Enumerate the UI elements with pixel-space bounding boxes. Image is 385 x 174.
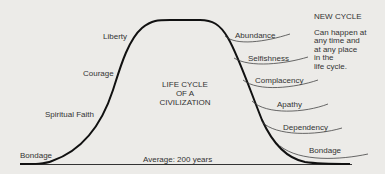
stage-apathy: Apathy	[277, 100, 302, 109]
average-duration-label: Average: 200 years	[143, 155, 212, 164]
new-cycle-line: life cycle.	[314, 63, 367, 72]
title-line-1: LIFE CYCLE	[148, 80, 222, 89]
new-cycle-note: NEW CYCLE Can happen at any time and at …	[314, 13, 367, 72]
stage-courage: Courage	[83, 69, 114, 78]
stage-bondage-start: Bondage	[20, 151, 52, 160]
new-cycle-heading: NEW CYCLE	[314, 13, 367, 22]
diagram-title: LIFE CYCLE OF A CIVILIZATION	[148, 80, 222, 107]
stage-spiritual-faith: Spiritual Faith	[45, 110, 94, 119]
stage-dependency: Dependency	[283, 123, 328, 132]
life-cycle-diagram: Bondage Spiritual Faith Courage Liberty …	[0, 0, 385, 174]
stage-bondage-end: Bondage	[309, 146, 341, 155]
stage-selfishness: Selfishness	[248, 54, 289, 63]
title-line-3: CIVILIZATION	[148, 98, 222, 107]
stage-abundance: Abundance	[235, 31, 275, 40]
stage-liberty: Liberty	[103, 32, 127, 41]
stage-complacency: Complacency	[255, 76, 303, 85]
title-line-2: OF A	[148, 89, 222, 98]
